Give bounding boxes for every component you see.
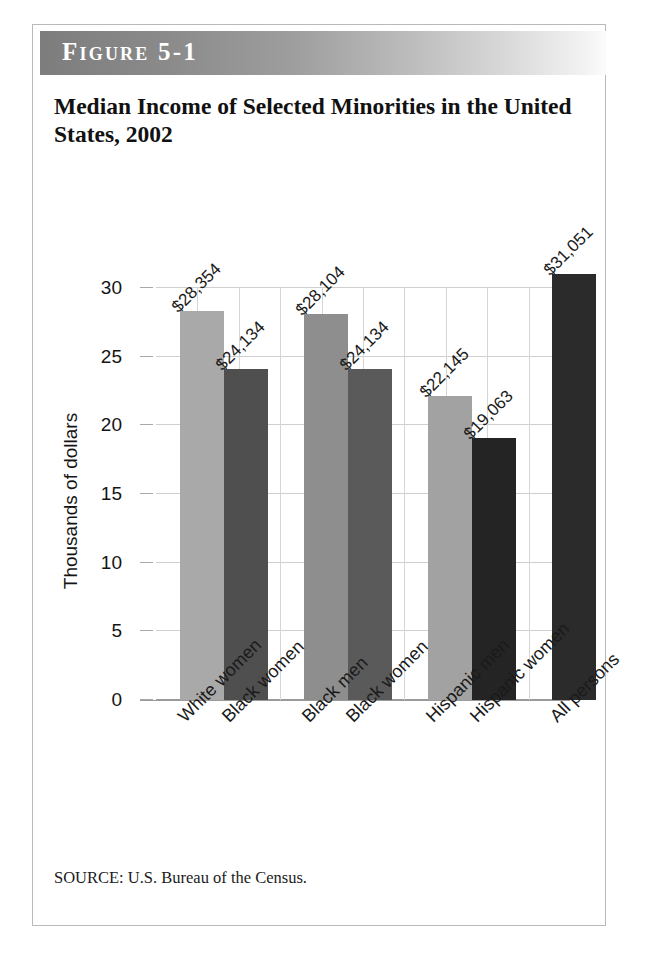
y-axis-tick-mark <box>140 287 153 288</box>
y-axis-tick-mark <box>140 630 153 631</box>
chart-plot-wrapper: Thousands of dollars 051015202530 $28,35… <box>0 0 663 973</box>
bar <box>180 311 224 700</box>
bar <box>428 396 472 700</box>
y-axis-tick-label: 25 <box>62 347 122 366</box>
y-axis-tick-mark <box>140 699 153 700</box>
source-note: SOURCE: U.S. Bureau of the Census. <box>54 868 307 888</box>
y-axis-tick-label: 0 <box>62 690 122 709</box>
bar <box>304 314 348 700</box>
y-axis-tick-mark <box>140 356 153 357</box>
y-axis-tick-label: 5 <box>62 621 122 640</box>
gridline-vertical <box>529 288 530 700</box>
gridline-vertical <box>280 288 281 700</box>
bar-value-label: $31,051 <box>540 222 598 280</box>
bar <box>348 369 392 700</box>
y-axis-tick-label: 15 <box>62 484 122 503</box>
y-axis-tick-mark <box>140 562 153 563</box>
y-axis-tick-mark <box>140 424 153 425</box>
gridline-vertical <box>404 288 405 700</box>
y-axis-tick-mark <box>140 493 153 494</box>
y-axis-tick-label: 10 <box>62 553 122 572</box>
y-axis-tick-label: 20 <box>62 415 122 434</box>
y-axis-tick-label: 30 <box>62 278 122 297</box>
y-axis-tick-labels: 051015202530 <box>0 288 140 700</box>
